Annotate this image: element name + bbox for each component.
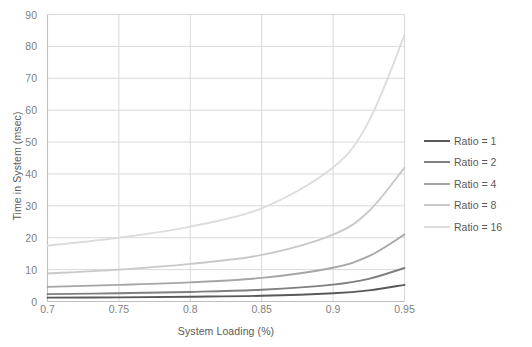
legend-line-swatch [424,222,450,232]
x-axis-tick-label: 0.75 [109,303,129,315]
legend-item[interactable]: Ratio = 1 [424,130,532,152]
x-axis-title: System Loading (%) [47,325,405,337]
y-axis-title: Time in System (msec) [11,86,23,246]
legend-line-swatch [424,179,450,189]
legend-line-swatch [424,136,450,146]
x-axis-tick-label: 0.7 [40,303,55,315]
legend-item-label: Ratio = 1 [450,135,496,147]
legend-item-label: Ratio = 4 [450,178,496,190]
legend-item-label: Ratio = 16 [450,221,502,233]
legend-item-label: Ratio = 2 [450,156,496,168]
legend-item[interactable]: Ratio = 4 [424,173,532,195]
chart-container: 0102030405060708090 0.70.750.80.850.90.9… [0,0,532,347]
x-axis-tick-label: 0.95 [394,303,414,315]
x-axis-tick-label: 0.8 [183,303,198,315]
legend-item-label: Ratio = 8 [450,199,496,211]
legend-item[interactable]: Ratio = 8 [424,195,532,217]
legend-item[interactable]: Ratio = 16 [424,216,532,238]
legend-line-swatch [424,157,450,167]
legend-line-swatch [424,200,450,210]
x-axis-tick-label: 0.9 [326,303,341,315]
x-axis-tick-label: 0.85 [251,303,271,315]
legend-item[interactable]: Ratio = 2 [424,152,532,174]
chart-legend: Ratio = 1Ratio = 2Ratio = 4Ratio = 8Rati… [424,130,532,238]
